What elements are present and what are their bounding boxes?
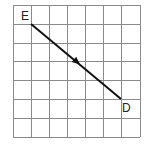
point-label-D: D	[122, 101, 131, 115]
point-label-E: E	[21, 9, 29, 23]
vector-grid-diagram: E D	[0, 0, 148, 152]
